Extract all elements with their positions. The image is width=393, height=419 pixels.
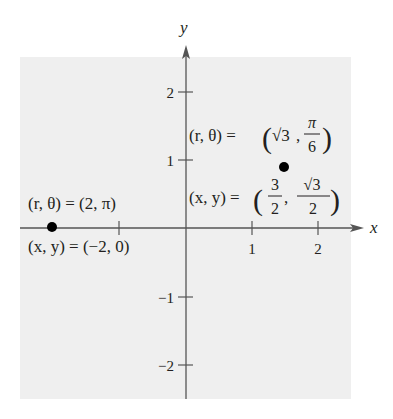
- point-b-polar-label: (r, θ) = (2, π): [28, 194, 116, 213]
- y-axis-label: y: [178, 18, 188, 37]
- svg-text:,: ,: [284, 188, 288, 207]
- svg-text:√3: √3: [304, 176, 321, 193]
- svg-text:2: 2: [271, 200, 279, 217]
- svg-text:π: π: [308, 114, 317, 131]
- svg-text:): ): [322, 121, 332, 155]
- svg-text:(: (: [253, 183, 263, 217]
- y-tick-label-neg1: −1: [158, 290, 174, 306]
- svg-text:√3: √3: [272, 126, 290, 145]
- svg-text:(: (: [262, 121, 272, 155]
- x-axis-label: x: [369, 218, 378, 237]
- point-a-marker: [279, 162, 289, 172]
- svg-text:): ): [330, 183, 340, 217]
- svg-text:(r, θ) =: (r, θ) =: [189, 126, 236, 145]
- svg-text:3: 3: [271, 176, 279, 193]
- y-tick-label-neg2: −2: [158, 358, 174, 374]
- x-tick-label-1: 1: [248, 241, 256, 257]
- y-tick-label-1: 1: [167, 153, 175, 169]
- point-b-marker: [47, 222, 57, 232]
- svg-text:2: 2: [309, 200, 317, 217]
- svg-text:(x, y) =: (x, y) =: [189, 188, 240, 207]
- svg-text:,: ,: [296, 126, 300, 145]
- y-tick-label-2: 2: [167, 85, 175, 101]
- polar-coordinates-figure: x y 1 2 2 1 −1 −2 (r, θ) = ( √3 , π 6 ) …: [0, 0, 393, 419]
- point-b-rect-label: (x, y) = (−2, 0): [28, 237, 129, 256]
- x-tick-label-2: 2: [314, 241, 322, 257]
- svg-text:6: 6: [308, 138, 316, 155]
